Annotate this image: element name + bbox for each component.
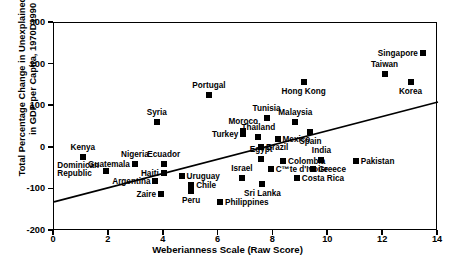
- data-point-label: India: [312, 146, 331, 155]
- x-tick-label: 8: [259, 234, 285, 244]
- y-tick-label: -100: [15, 183, 45, 193]
- data-point-label: Uruguay: [187, 172, 220, 181]
- data-point-label: Costa Rica: [302, 173, 344, 182]
- x-tick-label: 12: [369, 234, 395, 244]
- data-point-label: Nigeria: [121, 150, 149, 159]
- data-point-label: Korea: [399, 87, 422, 96]
- data-point-marker: [239, 175, 245, 181]
- data-point-marker: [154, 119, 160, 125]
- data-point-marker: [188, 182, 194, 188]
- y-tick-label: 300: [15, 17, 45, 27]
- data-point-marker: [264, 115, 270, 121]
- y-tick-label: 100: [15, 100, 45, 110]
- data-point-marker: [275, 136, 281, 142]
- data-point-label: Thailand: [241, 123, 275, 132]
- data-point-marker: [268, 166, 274, 172]
- data-point-marker: [152, 178, 158, 184]
- data-point-label: Spain: [299, 137, 321, 146]
- data-point-marker: [217, 199, 223, 205]
- data-point-label: Singapore: [378, 48, 418, 57]
- x-tick-label: 2: [95, 234, 121, 244]
- x-tick-label: 0: [40, 234, 66, 244]
- data-point-label: Syria: [147, 108, 167, 117]
- data-point-label: Pakistan: [361, 157, 395, 166]
- data-point-marker: [318, 157, 324, 163]
- data-point-label: Malaysia: [278, 108, 312, 117]
- data-point-label: Guatemala: [88, 159, 130, 168]
- data-point-marker: [292, 119, 298, 125]
- plot-area: KenyaDominican RepublicNigeriaGuatemalaS…: [53, 22, 437, 230]
- data-point-label: Ecuador: [147, 150, 180, 159]
- data-point-marker: [80, 154, 86, 160]
- x-tick-label: 6: [205, 234, 231, 244]
- y-tick-label: 0: [15, 142, 45, 152]
- data-point-marker: [258, 156, 264, 162]
- data-point-marker: [158, 191, 164, 197]
- data-point-marker: [259, 181, 265, 187]
- data-point-marker: [294, 175, 300, 181]
- data-point-label: Haiti: [141, 168, 159, 177]
- x-tick-label: 4: [150, 234, 176, 244]
- data-point-marker: [132, 161, 138, 167]
- data-point-marker: [280, 158, 286, 164]
- data-point-label: Zaire: [136, 190, 156, 199]
- x-tick-label: 10: [314, 234, 340, 244]
- data-point-marker: [301, 79, 307, 85]
- data-point-label: Taiwan: [371, 60, 398, 69]
- x-tick-label: 14: [424, 234, 450, 244]
- data-point-marker: [103, 168, 109, 174]
- x-axis-title: Weberianness Scale (Raw Score): [0, 244, 455, 255]
- data-point-marker: [420, 50, 426, 56]
- data-point-label: Egypt: [250, 145, 273, 154]
- data-point-marker: [255, 134, 261, 140]
- data-point-label: Greece: [318, 164, 346, 173]
- data-point-marker: [161, 161, 167, 167]
- data-point-label: Philippines: [225, 197, 269, 206]
- data-point-marker: [206, 92, 212, 98]
- data-point-marker: [310, 166, 316, 172]
- data-point-label: Kenya: [71, 143, 96, 152]
- data-point-label: Israel: [231, 164, 252, 173]
- data-point-label: Portugal: [192, 81, 225, 90]
- data-point-marker: [408, 79, 414, 85]
- data-point-label: Argentina: [112, 177, 150, 186]
- data-point-marker: [179, 173, 185, 179]
- data-point-marker: [188, 188, 194, 194]
- data-point-label: Hong Kong: [282, 87, 326, 96]
- data-point-label: Turkey: [212, 130, 238, 139]
- data-point-marker: [382, 71, 388, 77]
- data-point-label: Peru: [182, 196, 200, 205]
- data-point-label: Sri Lanka: [244, 189, 281, 198]
- scatter-plot-figure: Total Percentage Change in Unexplained G…: [0, 0, 455, 272]
- data-point-label: Chile: [196, 181, 216, 190]
- y-tick-label: 200: [15, 59, 45, 69]
- data-point-marker: [307, 129, 313, 135]
- data-point-label: Tunisia: [253, 104, 281, 113]
- data-point-marker: [161, 170, 167, 176]
- data-point-marker: [353, 158, 359, 164]
